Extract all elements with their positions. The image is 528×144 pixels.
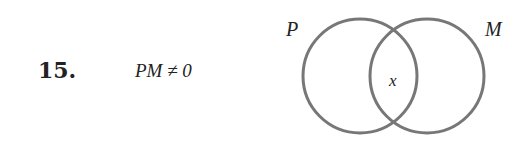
circle-p (303, 19, 417, 133)
label-m: M (484, 18, 503, 40)
intersection-label: x (388, 71, 397, 90)
venn-diagram: P M x (0, 0, 528, 144)
label-p: P (285, 18, 298, 40)
circle-m (370, 19, 484, 133)
